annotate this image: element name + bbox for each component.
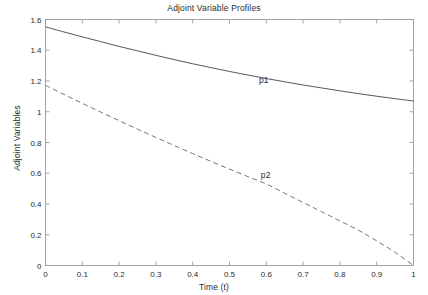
y-tick-label: 0: [8, 261, 42, 270]
x-tick-label: 0.6: [261, 270, 272, 279]
series-line-p1: [46, 27, 414, 101]
x-tick-label: 0.4: [187, 270, 198, 279]
axis-ticks: [46, 20, 414, 266]
y-axis-label: Adjoint Variables: [12, 78, 22, 198]
series-label-p1: p1: [259, 75, 269, 85]
x-tick-label: 0.7: [298, 270, 309, 279]
x-tick-label: 0: [43, 270, 47, 279]
axes-frame: [46, 20, 414, 266]
data-series: [46, 27, 414, 266]
plot-area: [0, 0, 428, 295]
y-tick-label: 0.2: [8, 230, 42, 239]
series-label-p2: p2: [261, 170, 271, 180]
x-tick-label: 0.2: [114, 270, 125, 279]
x-tick-label: 0.8: [334, 270, 345, 279]
x-tick-label: 0.9: [371, 270, 382, 279]
figure-canvas: Adjoint Variable Profiles 00.10.20.30.40…: [0, 0, 428, 295]
x-tick-label: 1: [411, 270, 415, 279]
series-line-p2: [46, 85, 414, 265]
x-axis-label: Time (t): [0, 282, 428, 292]
x-tick-label: 0.3: [150, 270, 161, 279]
y-tick-label: 0.4: [8, 200, 42, 209]
x-tick-label: 0.1: [77, 270, 88, 279]
y-tick-label: 1.4: [8, 46, 42, 55]
x-tick-label: 0.5: [224, 270, 235, 279]
y-tick-label: 1.6: [8, 15, 42, 24]
